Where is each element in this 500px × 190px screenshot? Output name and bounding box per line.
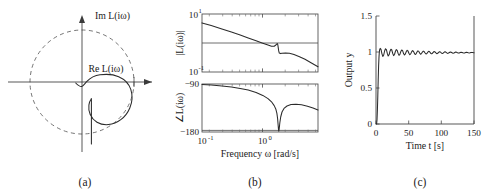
real-axis-label: Re L(iω) (88, 63, 123, 75)
step-response-plot: 0 0.5 1 1.5 Output y 0 50 100 150 Time t… (340, 0, 500, 190)
step-response-curve (376, 48, 474, 124)
step-xtick-labels: 0 50 100 150 (374, 128, 482, 138)
magnitude-ytick-lower-exp: -1 (199, 64, 205, 71)
phase-frame (202, 84, 318, 132)
nyquist-curve (76, 74, 132, 144)
caption-c: (c) (340, 176, 500, 188)
step-ytick-1p5: 1.5 (361, 11, 373, 21)
panel-nyquist: Im L(iω) Re L(iω) (a) (0, 0, 170, 190)
output-axis-label: Output y (343, 53, 354, 88)
imaginary-axis-arrow-icon (79, 15, 85, 23)
imaginary-axis-label: Im L(iω) (95, 10, 130, 22)
figure-container: Im L(iω) Re L(iω) (a) (0, 0, 500, 190)
phase-minor-ticks (209, 84, 315, 132)
xtick-1e-1-exp: -1 (208, 134, 214, 141)
panel-step-response: 0 0.5 1 1.5 Output y 0 50 100 150 Time t… (340, 0, 500, 190)
xtick-1e0-exp: 0 (269, 134, 273, 141)
panel-bode: 10 1 10 -1 |L(iω)| (170, 0, 340, 190)
step-xtick-marks (376, 121, 474, 125)
caption-b: (b) (170, 176, 340, 188)
phase-axis-label: ∠L(iω) (174, 93, 186, 124)
bode-plot: 10 1 10 -1 |L(iω)| (170, 0, 340, 190)
phase-ytick-upper: −90 (185, 79, 200, 89)
step-ytick-0: 0 (367, 119, 372, 129)
step-ytick-labels: 0 0.5 1 1.5 (361, 11, 373, 129)
xtick-1e0: 10 (258, 136, 268, 146)
magnitude-axis-label: |L(iω)| (174, 30, 186, 56)
frequency-xtick-labels: 10 -1 10 0 (197, 134, 272, 146)
step-xtick-50: 50 (404, 128, 414, 138)
magnitude-curve (202, 23, 318, 67)
step-ytick-0p5: 0.5 (361, 83, 373, 93)
xtick-1e-1: 10 (197, 136, 207, 146)
step-xtick-150: 150 (467, 128, 481, 138)
caption-a: (a) (0, 176, 170, 188)
time-axis-label: Time t [s] (406, 140, 444, 151)
step-xtick-0: 0 (374, 128, 379, 138)
step-xtick-100: 100 (434, 128, 448, 138)
real-axis-arrow-icon (144, 79, 152, 85)
magnitude-ytick-lower: 10 (189, 67, 199, 77)
step-ytick-1: 1 (367, 47, 372, 57)
frequency-axis-label: Frequency ω [rad/s] (221, 148, 299, 159)
phase-curve (202, 85, 318, 132)
nyquist-plot: Im L(iω) Re L(iω) (0, 0, 170, 190)
magnitude-ytick-upper-exp: 1 (199, 7, 202, 14)
magnitude-ytick-upper: 10 (189, 10, 199, 20)
